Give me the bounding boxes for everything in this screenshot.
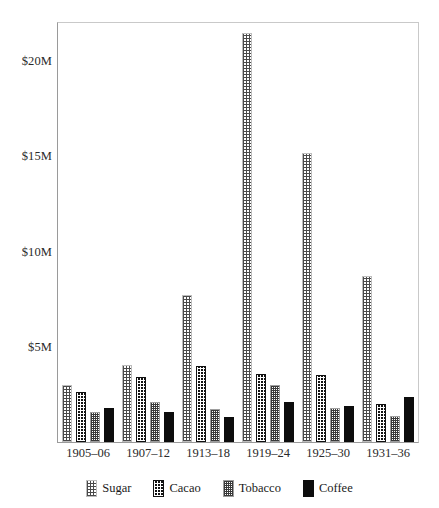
legend-swatch-cacao-icon — [153, 480, 164, 497]
bar-cacao-1907–12 — [136, 377, 146, 442]
bar-coffee-1905–06 — [104, 408, 114, 442]
y-axis-tick-label: $5M — [28, 339, 52, 354]
x-axis-tick-label: 1913–18 — [186, 446, 230, 461]
bar-tobacco-1907–12 — [150, 402, 160, 442]
chart-legend: SugarCacaoTobaccoCoffee — [0, 476, 439, 500]
x-axis-tick-label: 1925–30 — [306, 446, 350, 461]
legend-swatch-coffee-icon — [303, 480, 314, 497]
bar-cacao-1905–06 — [76, 392, 86, 442]
y-axis-tick-label: $20M — [22, 54, 52, 69]
bar-coffee-1925–30 — [344, 406, 354, 442]
legend-label: Tobacco — [239, 481, 281, 496]
bar-cacao-1925–30 — [316, 375, 326, 442]
legend-item-tobacco[interactable]: Tobacco — [223, 480, 281, 497]
x-axis-tick-label: 1905–06 — [66, 446, 110, 461]
legend-label: Coffee — [319, 481, 353, 496]
bar-sugar-1919–24 — [242, 33, 252, 442]
bar-coffee-1913–18 — [224, 417, 234, 442]
bars-layer — [58, 23, 418, 442]
bar-coffee-1919–24 — [284, 402, 294, 442]
bar-tobacco-1905–06 — [90, 412, 100, 442]
bar-tobacco-1913–18 — [210, 409, 220, 442]
legend-label: Cacao — [169, 481, 200, 496]
x-axis: 1905–061907–121913–181919–241925–301931–… — [58, 446, 418, 468]
bar-coffee-1931–36 — [404, 397, 414, 442]
bar-sugar-1913–18 — [182, 295, 192, 442]
y-axis-tick-label: $10M — [22, 244, 52, 259]
bar-sugar-1905–06 — [62, 385, 72, 442]
x-axis-tick-label: 1931–36 — [366, 446, 410, 461]
bar-sugar-1907–12 — [122, 365, 132, 442]
bar-tobacco-1931–36 — [390, 416, 400, 442]
bar-cacao-1919–24 — [256, 374, 266, 442]
bar-sugar-1931–36 — [362, 276, 372, 442]
bar-chart: $5M$10M$15M$20M 1905–061907–121913–18191… — [0, 0, 439, 508]
legend-item-coffee[interactable]: Coffee — [303, 480, 353, 497]
bar-tobacco-1925–30 — [330, 408, 340, 442]
bar-sugar-1925–30 — [302, 153, 312, 442]
bar-coffee-1907–12 — [164, 412, 174, 442]
y-axis: $5M$10M$15M$20M — [0, 0, 52, 508]
legend-swatch-sugar-icon — [86, 480, 97, 497]
bar-cacao-1931–36 — [376, 404, 386, 442]
legend-item-cacao[interactable]: Cacao — [153, 480, 200, 497]
y-axis-tick-label: $15M — [22, 149, 52, 164]
legend-swatch-tobacco-icon — [223, 480, 234, 497]
x-axis-tick-label: 1919–24 — [246, 446, 290, 461]
bar-cacao-1913–18 — [196, 366, 206, 442]
legend-item-sugar[interactable]: Sugar — [86, 480, 131, 497]
bar-tobacco-1919–24 — [270, 385, 280, 442]
legend-label: Sugar — [102, 481, 131, 496]
x-axis-tick-label: 1907–12 — [126, 446, 170, 461]
